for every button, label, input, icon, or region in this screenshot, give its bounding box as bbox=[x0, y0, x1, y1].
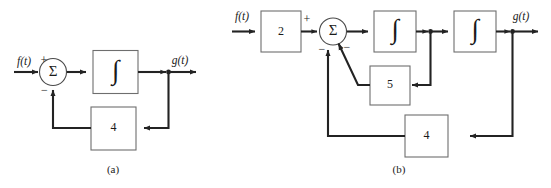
diagram-a-feedback-to-gain-wire bbox=[144, 72, 169, 128]
diagram-a-caption: (a) bbox=[107, 163, 120, 176]
diagram-b: f(t) 2 + Σ − − ∫ bbox=[232, 10, 538, 176]
diagram-b-input-gain-label: 2 bbox=[278, 24, 284, 38]
diagram-b-integrator1-symbol: ∫ bbox=[389, 14, 400, 46]
figure-root: f(t) + Σ − ∫ g(t) bbox=[0, 0, 551, 188]
block-diagram-figure: f(t) + Σ − ∫ g(t) bbox=[0, 0, 551, 188]
diagram-a-sigma-symbol: Σ bbox=[49, 63, 58, 79]
diagram-a-integrator-symbol: ∫ bbox=[110, 55, 121, 87]
diagram-b-minus-sign-inner: − bbox=[344, 40, 351, 54]
diagram-b-output-label: g(t) bbox=[513, 10, 530, 23]
diagram-b-plus-sign: + bbox=[304, 12, 311, 26]
diagram-a: f(t) + Σ − ∫ g(t) bbox=[14, 51, 196, 176]
diagram-b-minus-sign-outer: − bbox=[319, 42, 326, 56]
diagram-b-caption: (b) bbox=[393, 163, 406, 176]
diagram-a-output-label: g(t) bbox=[172, 54, 189, 67]
diagram-a-input-label: f(t) bbox=[17, 55, 31, 68]
diagram-b-integrator2-symbol: ∫ bbox=[469, 14, 480, 46]
diagram-a-gain-to-sum-wire bbox=[53, 90, 91, 128]
diagram-b-input-label: f(t) bbox=[235, 10, 249, 23]
diagram-a-gain-label: 4 bbox=[111, 120, 117, 134]
diagram-a-minus-sign: − bbox=[41, 83, 48, 97]
diagram-b-outer-gain-label: 4 bbox=[424, 128, 430, 142]
diagram-b-sigma-symbol: Σ bbox=[329, 22, 338, 38]
diagram-b-inner-gain-label: 5 bbox=[387, 77, 393, 91]
